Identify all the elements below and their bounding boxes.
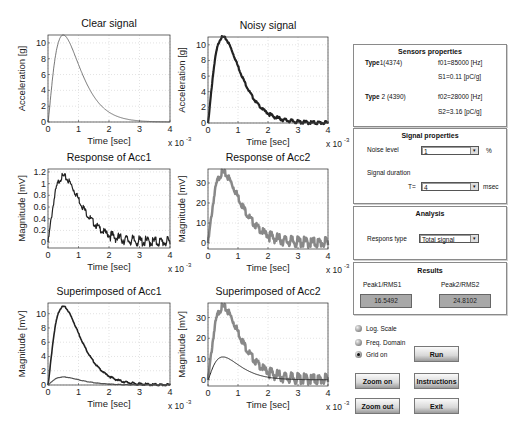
freq-domain-radio[interactable] — [355, 339, 362, 346]
respons-type-select[interactable]: Total signal ▾ — [419, 234, 479, 243]
svg-text:Time [sec]: Time [sec] — [87, 398, 130, 409]
plot-axes: 012340102030Time [sec]x 10-3Magnitude [m… — [160, 149, 360, 279]
svg-text:8: 8 — [201, 55, 206, 65]
f02-value: f02=28000 [Hz] — [438, 93, 482, 100]
duration-unit: msec — [483, 183, 499, 190]
svg-text:Time [sec]: Time [sec] — [246, 262, 289, 273]
peak2-rms2-value: 24.8102 — [439, 294, 491, 308]
plot-axes: 012340102030Time [sec]x 10-3Magnitude [m… — [160, 283, 360, 416]
svg-text:4: 4 — [325, 251, 330, 261]
svg-text:x 10: x 10 — [326, 139, 342, 149]
grid-on-radio[interactable] — [355, 351, 362, 358]
svg-text:0: 0 — [41, 380, 46, 390]
plot-resp2[interactable]: Response of Acc2012340102030Time [sec]x … — [160, 149, 360, 279]
svg-text:20: 20 — [196, 333, 206, 343]
svg-text:1: 1 — [235, 388, 240, 398]
f01-value: f01=85000 [Hz] — [438, 59, 482, 66]
svg-text:6: 6 — [201, 71, 206, 81]
svg-text:1: 1 — [235, 125, 240, 135]
svg-text:2: 2 — [41, 366, 46, 376]
svg-text:2: 2 — [265, 125, 270, 135]
signal-duration-label: Signal duration — [367, 169, 410, 176]
svg-text:1: 1 — [41, 179, 46, 189]
peak1-rms1-value: 16.5492 — [360, 294, 412, 308]
peak2-rms2-label: Peak2/RMS2 — [441, 281, 479, 288]
signal-duration-select[interactable]: 4 ▾ — [421, 182, 479, 191]
dropdown-arrow-icon[interactable]: ▾ — [470, 235, 478, 242]
plot-sup2[interactable]: Superimposed of Acc2012340102030Time [se… — [160, 283, 360, 416]
freq-domain-label: Freq. Domain — [366, 339, 405, 346]
respons-type-value: Total signal — [422, 236, 455, 243]
svg-text:0.4: 0.4 — [33, 214, 46, 224]
svg-text:8: 8 — [41, 54, 46, 64]
results-panel: Results Peak1/RMS1 Peak2/RMS2 16.5492 24… — [353, 262, 507, 315]
svg-text:10: 10 — [196, 40, 206, 50]
svg-text:4: 4 — [41, 351, 46, 361]
svg-text:0: 0 — [45, 250, 50, 260]
svg-text:Time [sec]: Time [sec] — [246, 136, 289, 147]
svg-text:10: 10 — [196, 354, 206, 364]
signal-properties-title: Signal properties — [354, 132, 506, 139]
type2-label: Type 2 (4390) — [365, 93, 406, 100]
svg-text:2: 2 — [41, 101, 46, 111]
results-title: Results — [354, 267, 506, 274]
svg-text:-3: -3 — [344, 263, 350, 269]
svg-text:1: 1 — [76, 387, 81, 397]
svg-text:6: 6 — [41, 70, 46, 80]
noise-level-label: Noise level — [367, 146, 399, 153]
svg-text:8: 8 — [41, 323, 46, 333]
svg-text:0.2: 0.2 — [33, 225, 46, 235]
dropdown-arrow-icon[interactable]: ▾ — [470, 183, 478, 190]
svg-text:0: 0 — [201, 238, 206, 248]
svg-text:2: 2 — [106, 387, 111, 397]
svg-text:3: 3 — [137, 124, 142, 134]
plot-noisy[interactable]: Noisy signal012340246810Time [sec]x 10-3… — [160, 17, 360, 153]
svg-text:3: 3 — [295, 388, 300, 398]
svg-text:1: 1 — [76, 250, 81, 260]
zoom-out-button[interactable]: Zoom out — [355, 398, 400, 414]
log-scale-label: Log. Scale — [366, 325, 397, 332]
sensors-properties-panel: Sensors properties Type1(4374) f01=85000… — [353, 44, 507, 127]
signal-properties-panel: Signal properties Noise level 1 ▾ % Sign… — [353, 128, 507, 204]
svg-text:1: 1 — [235, 251, 240, 261]
svg-text:4: 4 — [201, 87, 206, 97]
run-button[interactable]: Run — [414, 346, 459, 362]
svg-text:-3: -3 — [344, 137, 350, 143]
plot-axes: 012340246810Time [sec]x 10-3Acceleration… — [160, 17, 360, 153]
svg-text:3: 3 — [137, 250, 142, 260]
svg-text:1.2: 1.2 — [33, 167, 46, 177]
svg-text:0.6: 0.6 — [33, 202, 46, 212]
svg-text:2: 2 — [265, 388, 270, 398]
t-label: T= — [408, 183, 416, 190]
svg-text:0.8: 0.8 — [33, 190, 46, 200]
svg-text:1: 1 — [76, 124, 81, 134]
svg-text:20: 20 — [196, 198, 206, 208]
svg-text:-3: -3 — [344, 400, 350, 406]
zoom-on-button[interactable]: Zoom on — [355, 373, 400, 389]
svg-text:Magnitude [mV]: Magnitude [mV] — [176, 311, 187, 378]
svg-text:10: 10 — [36, 38, 46, 48]
svg-text:3: 3 — [137, 387, 142, 397]
svg-text:Time [sec]: Time [sec] — [87, 261, 130, 272]
svg-text:2: 2 — [265, 251, 270, 261]
noise-level-select[interactable]: 1 ▾ — [421, 146, 479, 155]
dropdown-arrow-icon[interactable]: ▾ — [470, 147, 478, 154]
svg-text:3: 3 — [295, 251, 300, 261]
svg-text:2: 2 — [106, 250, 111, 260]
respons-type-label: Respons type — [367, 235, 407, 242]
svg-text:0: 0 — [205, 125, 210, 135]
analysis-title: Analysis — [354, 210, 506, 217]
log-scale-radio[interactable] — [355, 325, 362, 332]
svg-text:0: 0 — [205, 251, 210, 261]
svg-text:x 10: x 10 — [326, 402, 342, 412]
svg-text:0: 0 — [201, 375, 206, 385]
exit-button[interactable]: Exit — [414, 398, 459, 414]
instructions-button[interactable]: Instructions — [414, 373, 459, 389]
svg-text:10: 10 — [36, 309, 46, 319]
grid-on-label: Grid on — [366, 351, 387, 358]
svg-text:0: 0 — [45, 387, 50, 397]
svg-text:Magnitude [mV]: Magnitude [mV] — [176, 176, 187, 243]
peak1-rms1-label: Peak1/RMS1 — [363, 281, 401, 288]
s2-value: S2=3.16 [pC/g] — [438, 108, 482, 115]
analysis-panel: Analysis Respons type Total signal ▾ — [353, 206, 507, 260]
